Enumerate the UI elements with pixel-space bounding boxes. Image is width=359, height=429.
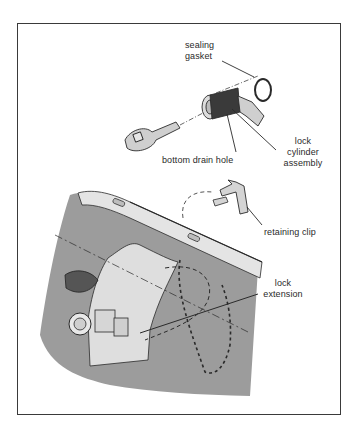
label-line: gasket [185, 51, 214, 62]
label-line: lock [258, 278, 308, 289]
label-line: lock [278, 136, 328, 147]
assembly-illustration [0, 0, 359, 429]
label-line: sealing [185, 40, 214, 51]
label-lock-cylinder-assembly: lock cylinder assembly [278, 136, 328, 169]
label-retaining-clip: retaining clip [264, 227, 316, 238]
retaining-clip [220, 180, 248, 214]
label-sealing-gasket: sealing gasket [185, 40, 214, 62]
sealing-gasket [255, 79, 271, 101]
label-line: assembly [278, 158, 328, 169]
label-bottom-drain-hole: bottom drain hole [162, 155, 233, 166]
label-line: extension [258, 289, 308, 300]
label-lock-extension: lock extension [258, 278, 308, 300]
key [125, 122, 180, 151]
label-line: cylinder [278, 147, 328, 158]
